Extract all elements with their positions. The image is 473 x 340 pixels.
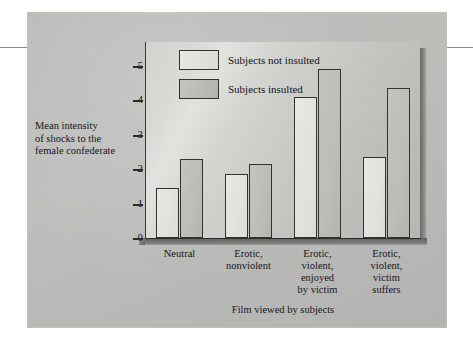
header-rule-left bbox=[0, 47, 27, 48]
bar-series1-cat1 bbox=[249, 164, 272, 238]
y-axis-title-line-3: female confederate bbox=[35, 145, 133, 158]
x-category-label-3-line-0: Erotic, bbox=[352, 248, 421, 260]
y-tick-mark-5 bbox=[133, 66, 143, 68]
y-axis-title-line-2: of shocks to the bbox=[35, 133, 133, 146]
legend-label-not-insulted: Subjects not insulted bbox=[228, 54, 320, 66]
legend-entry-insulted: Subjects insulted bbox=[179, 79, 320, 99]
y-tick-label-2: 2 bbox=[117, 162, 143, 174]
bar-series0-cat1 bbox=[225, 174, 248, 238]
y-tick-mark-2 bbox=[133, 169, 143, 171]
x-axis-line bbox=[145, 238, 421, 239]
x-category-label-2-line-1: violent, bbox=[283, 260, 352, 272]
legend-swatch-not-insulted bbox=[179, 50, 219, 70]
x-category-label-2-line-3: by victim bbox=[283, 284, 352, 296]
bar-series1-cat3 bbox=[387, 88, 410, 238]
x-category-label-1-line-1: nonviolent bbox=[214, 260, 283, 272]
y-axis-title: Mean intensity of shocks to the female c… bbox=[35, 120, 133, 158]
header-rule-right bbox=[447, 47, 473, 48]
y-axis-line bbox=[145, 42, 146, 239]
x-category-label-0-line-0: Neutral bbox=[145, 248, 214, 260]
x-category-label-3-line-3: suffers bbox=[352, 284, 421, 296]
x-category-label-2-line-0: Erotic, bbox=[283, 248, 352, 260]
bar-series1-cat0 bbox=[180, 159, 203, 238]
y-tick-mark-0 bbox=[133, 238, 143, 240]
legend-swatch-insulted bbox=[179, 79, 219, 99]
y-tick-label-5: 5 bbox=[117, 59, 143, 71]
x-axis-title: Film viewed by subjects bbox=[145, 304, 421, 315]
bar-series0-cat2 bbox=[294, 97, 317, 238]
bar-series1-cat2 bbox=[318, 69, 341, 238]
x-category-label-1-line-0: Erotic, bbox=[214, 248, 283, 260]
x-category-label-3-line-1: violent, bbox=[352, 260, 421, 272]
panel-right-shadow bbox=[420, 48, 427, 244]
figure-plate: 012345 Subjects not insulted Subjects in… bbox=[27, 12, 447, 328]
y-tick-label-0: 0 bbox=[117, 231, 143, 243]
y-tick-label-4: 4 bbox=[117, 93, 143, 105]
panel-floor-shadow bbox=[145, 238, 427, 245]
y-tick-label-1: 1 bbox=[117, 197, 143, 209]
x-category-label-3: Erotic,violent,victimsuffers bbox=[352, 248, 421, 296]
legend-label-insulted: Subjects insulted bbox=[228, 83, 303, 95]
y-tick-mark-3 bbox=[133, 135, 143, 137]
y-tick-mark-4 bbox=[133, 100, 143, 102]
x-category-label-1: Erotic,nonviolent bbox=[214, 248, 283, 272]
y-tick-mark-1 bbox=[133, 204, 143, 206]
x-category-label-2-line-2: enjoyed bbox=[283, 272, 352, 284]
x-category-label-0: Neutral bbox=[145, 248, 214, 260]
bar-series0-cat3 bbox=[363, 157, 386, 238]
legend: Subjects not insulted Subjects insulted bbox=[179, 50, 320, 108]
legend-entry-not-insulted: Subjects not insulted bbox=[179, 50, 320, 70]
bar-series0-cat0 bbox=[156, 188, 179, 238]
x-category-label-3-line-2: victim bbox=[352, 272, 421, 284]
x-category-label-2: Erotic,violent,enjoyedby victim bbox=[283, 248, 352, 296]
y-axis-title-line-1: Mean intensity bbox=[35, 120, 133, 133]
